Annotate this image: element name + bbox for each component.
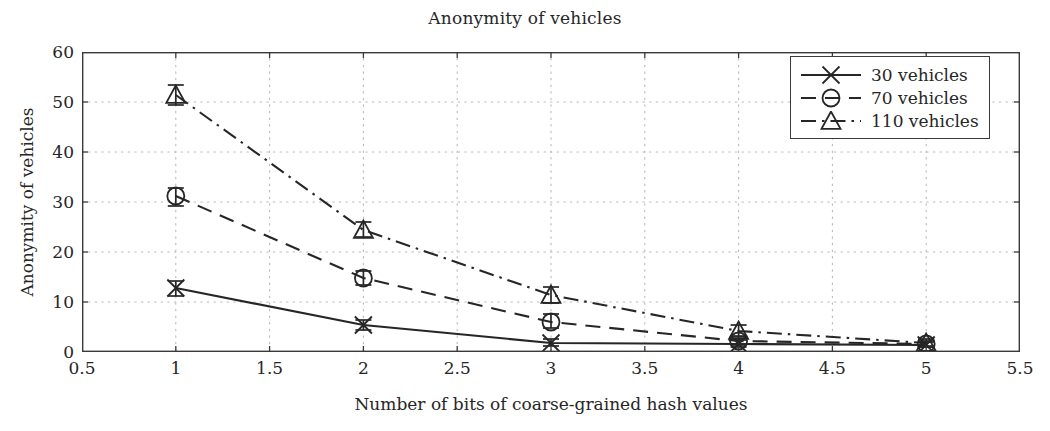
- legend-item[interactable]: 70 vehicles: [799, 86, 979, 109]
- y-axis-tick-label: 10: [34, 294, 74, 311]
- x-axis-tick-label: 1.5: [240, 360, 300, 377]
- y-axis-tick-label: 40: [34, 144, 74, 161]
- error-bar: [355, 271, 371, 285]
- y-axis-tick-label: 50: [34, 94, 74, 111]
- legend-swatch: [799, 111, 863, 131]
- x-axis-tick-label: 1: [146, 360, 206, 377]
- legend-sample-x-icon: [799, 65, 863, 85]
- x-axis-tick-label: 4.5: [802, 360, 862, 377]
- legend-label: 70 vehicles: [863, 88, 968, 108]
- x-axis-tick-label: 3.5: [615, 360, 675, 377]
- y-axis-tick-labels: 0102030405060: [30, 52, 74, 352]
- legend: 30 vehicles70 vehicles110 vehicles: [790, 56, 990, 139]
- y-axis-tick-label: 30: [34, 194, 74, 211]
- y-axis-tick-label: 20: [34, 244, 74, 261]
- chart-figure: Anonymity of vehicles Anonymity of vehic…: [0, 0, 1050, 431]
- legend-item[interactable]: 110 vehicles: [799, 109, 979, 132]
- x-axis-tick-label: 2: [333, 360, 393, 377]
- y-axis-tick-label: 60: [34, 44, 74, 61]
- legend-sample-triangle-icon: [799, 111, 863, 131]
- x-axis-tick-label: 4: [709, 360, 769, 377]
- legend-label: 110 vehicles: [863, 111, 979, 131]
- x-axis-tick-label: 5.5: [990, 360, 1050, 377]
- x-axis-tick-labels: 0.511.522.533.544.555.5: [82, 360, 1020, 384]
- x-axis-label: Number of bits of coarse-grained hash va…: [82, 394, 1020, 414]
- legend-swatch: [799, 65, 863, 85]
- legend-item[interactable]: 30 vehicles: [799, 63, 979, 86]
- x-axis-tick-label: 5: [896, 360, 956, 377]
- legend-label: 30 vehicles: [863, 65, 968, 85]
- x-axis-tick-label: 0.5: [52, 360, 112, 377]
- legend-sample-circle-icon: [799, 88, 863, 108]
- x-axis-tick-label: 3: [521, 360, 581, 377]
- legend-swatch: [799, 88, 863, 108]
- chart-title: Anonymity of vehicles: [0, 8, 1050, 28]
- x-axis-tick-label: 2.5: [427, 360, 487, 377]
